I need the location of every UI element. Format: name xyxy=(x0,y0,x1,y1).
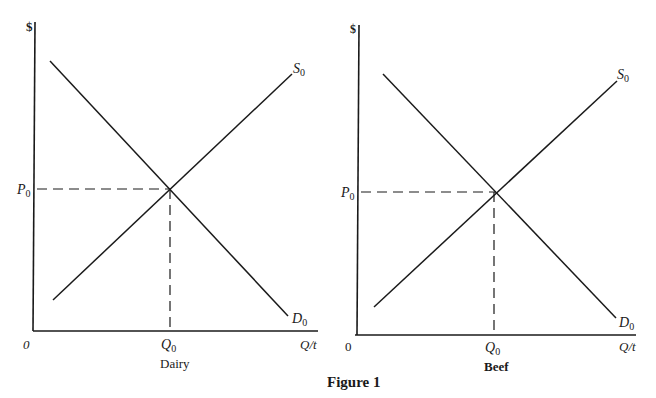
dairy-chart xyxy=(33,22,318,331)
dairy-q0-label: Q0 xyxy=(161,337,176,354)
dairy-x-axis-label: Q/t xyxy=(300,337,317,352)
beef-q0-label: Q0 xyxy=(485,340,500,357)
dairy-y-axis-label: $ xyxy=(26,19,33,34)
figure-caption: Figure 1 xyxy=(327,374,380,390)
dairy-supply-line xyxy=(53,74,292,300)
dairy-y-axis xyxy=(33,22,35,331)
beef-d0-label: D0 xyxy=(618,315,634,332)
beef-supply-line xyxy=(374,81,617,307)
beef-title: Beef xyxy=(484,359,509,374)
beef-p0-label: P0 xyxy=(340,185,355,202)
beef-y-axis xyxy=(357,25,359,335)
dairy-s0-label: S0 xyxy=(293,61,305,78)
beef-y-axis-label: $ xyxy=(350,22,356,36)
dairy-p0-label: P0 xyxy=(16,182,31,199)
figure-canvas: $ S0 P0 D0 0 Q0 Q/t Dairy $ S0 P0 D0 0 Q… xyxy=(0,0,656,398)
dairy-title: Dairy xyxy=(160,356,190,371)
beef-s0-label: S0 xyxy=(617,67,629,84)
dairy-d0-label: D0 xyxy=(291,311,307,328)
beef-origin-label: 0 xyxy=(345,339,352,354)
beef-chart xyxy=(355,25,636,335)
dairy-origin-label: 0 xyxy=(23,337,30,352)
beef-demand-line xyxy=(383,74,616,318)
beef-x-axis-label: Q/t xyxy=(619,339,636,354)
